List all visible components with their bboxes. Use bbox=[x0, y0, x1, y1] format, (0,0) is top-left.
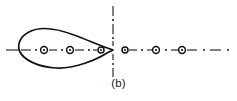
node-center-left bbox=[98, 47, 104, 53]
node-center-right bbox=[122, 47, 128, 53]
axis-dot-right-2 bbox=[165, 49, 167, 51]
node-right-inner bbox=[153, 47, 160, 54]
axis-dot-left-1 bbox=[35, 49, 37, 51]
vaxis-dot-3 bbox=[112, 63, 114, 65]
axis-dot-right-tail-1 bbox=[203, 49, 205, 51]
axis-dot-right-1 bbox=[141, 49, 143, 51]
node-left-inner bbox=[67, 47, 74, 54]
axis-dot-left-3 bbox=[88, 49, 90, 51]
axis-dot-right-tail-2 bbox=[227, 49, 229, 51]
axis-dot-left-2 bbox=[61, 49, 63, 51]
figure-container: (b) bbox=[0, 0, 237, 101]
vaxis-dot-2 bbox=[112, 37, 114, 39]
figure-caption: (b) bbox=[0, 76, 237, 90]
node-right-outer bbox=[179, 47, 186, 54]
node-left-outer bbox=[41, 47, 48, 54]
vaxis-dot-1 bbox=[112, 19, 114, 21]
